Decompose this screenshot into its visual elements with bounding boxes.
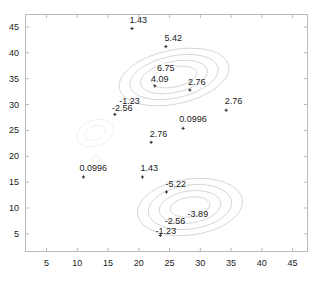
- contour-graphics-layer: [0, 0, 331, 282]
- contour-level-label: 4.09: [151, 75, 169, 84]
- x-tick-label: 35: [226, 259, 236, 268]
- contour-ring: [82, 123, 107, 144]
- contour-level-label: 2.76: [150, 129, 168, 138]
- contour-level-label: -5.22: [165, 180, 186, 189]
- x-tick-label: 45: [288, 259, 298, 268]
- x-tick-label: 30: [195, 259, 205, 268]
- y-tick-label: 5: [0, 229, 19, 238]
- contour-label-marker: [141, 175, 144, 178]
- x-tick-label: 15: [103, 259, 113, 268]
- contour-ring: [92, 156, 100, 162]
- contour-plot-figure: 51015202530354045 51015202530354045 1.43…: [0, 0, 331, 282]
- contour-label-marker: [113, 113, 116, 116]
- contour-label-marker: [164, 45, 167, 48]
- contour-label-marker: [182, 127, 185, 130]
- y-tick-label: 10: [0, 204, 19, 213]
- y-tick-label: 20: [0, 152, 19, 161]
- contour-level-label: 1.43: [129, 15, 147, 24]
- y-tick-label: 45: [0, 22, 19, 31]
- contour-level-label: 1.43: [141, 163, 159, 172]
- y-tick-label: 35: [0, 74, 19, 83]
- contour-lines-faint-ring: [73, 114, 118, 162]
- contour-level-label: 2.76: [188, 77, 206, 86]
- contour-level-label: 5.42: [165, 33, 183, 42]
- contour-level-label: -2.56: [112, 103, 133, 112]
- contour-ring: [73, 114, 118, 151]
- contour-level-label: 2.76: [225, 97, 243, 106]
- x-tick-label: 10: [72, 259, 82, 268]
- y-tick-label: 25: [0, 126, 19, 135]
- x-tick-label: 20: [134, 259, 144, 268]
- contour-lines-lower-trough: [134, 172, 247, 242]
- x-tick-label: 25: [165, 259, 175, 268]
- contour-level-label: 6.75: [156, 64, 176, 73]
- y-tick-label: 15: [0, 178, 19, 187]
- contour-label-marker: [82, 175, 85, 178]
- contour-ring: [134, 172, 247, 242]
- contour-level-label: 0.0996: [80, 163, 108, 172]
- y-tick-label: 30: [0, 100, 19, 109]
- y-tick-label: 40: [0, 48, 19, 57]
- contour-label-marker: [130, 27, 133, 30]
- contour-level-label: -3.89: [188, 209, 209, 218]
- contour-label-marker: [150, 141, 153, 144]
- contour-ring: [126, 47, 223, 107]
- contour-label-marker: [225, 109, 228, 112]
- contour-level-label: -1.23: [156, 226, 177, 235]
- x-tick-label: 40: [257, 259, 267, 268]
- contour-level-label: 0.0996: [179, 115, 207, 124]
- x-tick-label: 5: [44, 259, 49, 268]
